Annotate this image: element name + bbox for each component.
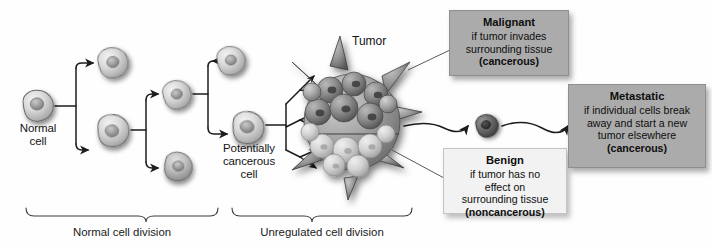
callout-metastatic[interactable]: Metastatic if individual cells break awa… — [568, 84, 706, 168]
callout-benign-body: if tumor has no effect on surrounding ti… — [447, 168, 563, 206]
tumor-mass — [292, 36, 422, 200]
arrow-metastatic-cell-to-box — [502, 122, 568, 132]
division-connectors — [55, 61, 227, 168]
arrow-to-daughter-upper — [76, 63, 93, 68]
stage-braces — [26, 208, 412, 222]
potentially-cancerous-cell — [230, 110, 266, 146]
brace-label-normal-division: Normal cell division — [26, 226, 218, 239]
normal-cell — [23, 90, 53, 121]
callout-malignant-body: if tumor invades surrounding tissue — [453, 30, 565, 55]
brace-label-unregulated-division: Unregulated cell division — [232, 226, 412, 239]
daughter-cell-lower — [96, 113, 131, 148]
granddaughter-cell-lower — [161, 150, 195, 184]
great-granddaughter-cell — [216, 45, 247, 76]
diagram-canvas: Normal cell Potentially cancerous cell T… — [0, 0, 712, 246]
metastatic-cell — [474, 113, 500, 139]
arrow-to-daughter-lower — [76, 144, 88, 150]
tumor-label: Tumor — [352, 34, 386, 48]
arrow-tumor-to-metastatic-cell — [404, 123, 468, 131]
callout-malignant[interactable]: Malignant if tumor invades surrounding t… — [449, 10, 569, 76]
leader-line-malignant — [408, 50, 450, 70]
arrow-to-potentially-cancerous — [208, 128, 227, 134]
callout-malignant-heading: Malignant — [453, 15, 565, 29]
granddaughter-cell-upper — [161, 78, 194, 111]
callout-metastatic-tail: (cancerous) — [572, 142, 702, 155]
arrow-to-granddaughter-upper — [146, 94, 158, 100]
potentially-cancerous-cell-label: Potentially cancerous cell — [206, 142, 292, 182]
daughter-cell-upper — [96, 46, 130, 80]
callout-metastatic-heading: Metastatic — [572, 89, 702, 103]
callout-malignant-tail: (cancerous) — [453, 55, 565, 68]
fan-branch-a — [286, 90, 300, 104]
fan-branch-b — [286, 120, 300, 127]
callout-benign-tail: (noncancerous) — [447, 206, 563, 219]
callout-benign[interactable]: Benign if tumor has no effect on surroun… — [443, 148, 567, 214]
leader-line-benign — [392, 150, 444, 178]
callout-benign-heading: Benign — [447, 153, 563, 167]
arrow-to-great-granddaughter — [208, 61, 214, 66]
brace-normal-division — [26, 208, 218, 222]
arrow-to-granddaughter-lower — [146, 162, 158, 168]
normal-cell-label: Normal cell — [4, 122, 72, 148]
brace-unregulated-division — [232, 208, 412, 222]
callout-metastatic-body: if individual cells break away and start… — [572, 104, 702, 142]
